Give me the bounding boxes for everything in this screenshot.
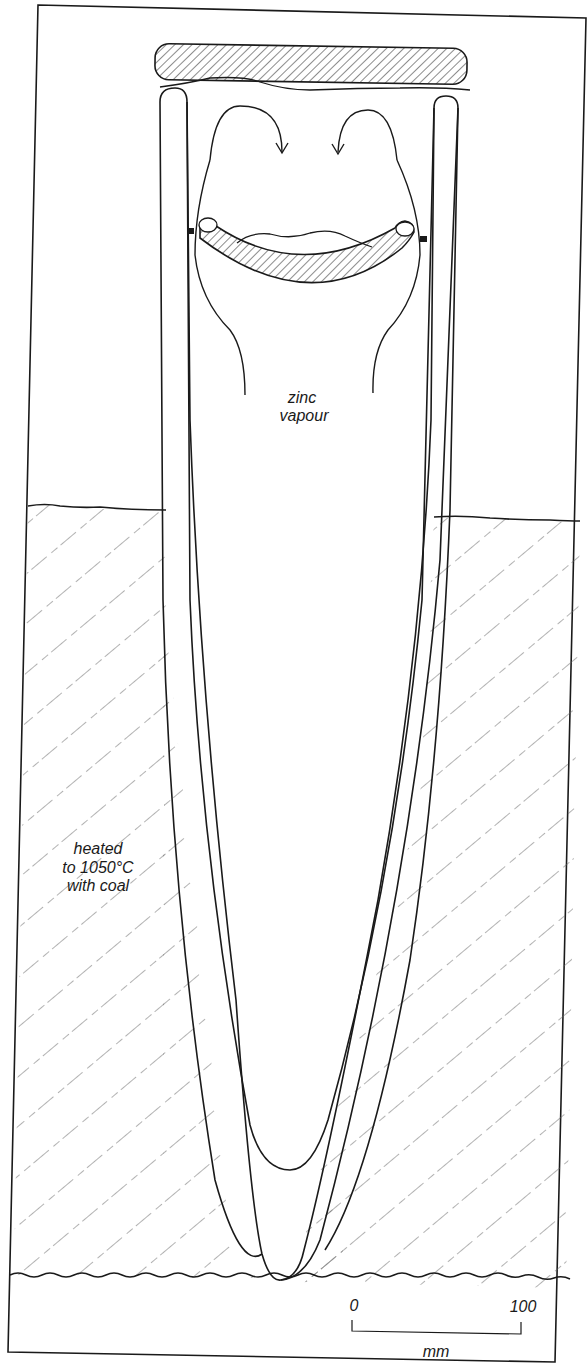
label-vapour: vapour: [280, 407, 330, 424]
vapour-dome: [195, 160, 245, 395]
label-with-coal: with coal: [67, 877, 130, 894]
bowl-support-right: [420, 236, 427, 242]
scale-end-label: 100: [510, 1298, 537, 1315]
scale-bar: 0 100 mm: [350, 1297, 537, 1360]
coal-bed: [10, 505, 580, 1289]
crucible-lid: [155, 44, 468, 85]
scale-start-label: 0: [350, 1297, 359, 1314]
label-zinc: zinc: [287, 389, 316, 406]
label-temperature: to 1050°C: [62, 859, 134, 876]
vapour-circulation-arrows: [210, 106, 397, 160]
scale-unit-label: mm: [423, 1343, 450, 1360]
condensed-zinc: [237, 231, 372, 247]
bowl-support-left: [187, 228, 194, 234]
condenser-bowl: [200, 219, 414, 283]
label-heated: heated: [74, 840, 124, 857]
diagram-canvas: zinc vapour heated to 1050°C with coal 0…: [0, 0, 588, 1366]
